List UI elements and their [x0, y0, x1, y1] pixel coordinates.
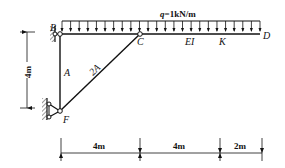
structure-diagram: q=1kN/m B C D F K A 2A EI 4m 4m 4m 2m — [0, 0, 285, 168]
node-label-c: C — [137, 36, 144, 47]
load-label: q=1kN/m — [160, 9, 196, 19]
dimension-label-3: 2m — [234, 141, 247, 151]
node-label-b: B — [50, 22, 56, 33]
node-label-k: K — [218, 36, 227, 47]
wall-support-f — [42, 98, 60, 120]
hinge-f — [58, 109, 63, 114]
vertical-dimension-label: 4m — [23, 66, 33, 79]
dimension-label-1: 4m — [93, 141, 106, 151]
vertical-dimension: 4m — [20, 32, 35, 108]
member-label-a: A — [63, 67, 71, 78]
member-label-ei: EI — [184, 36, 195, 47]
horizontal-dimension: 4m 4m 2m — [61, 138, 262, 161]
node-label-f: F — [62, 114, 70, 125]
member-label-2a: 2A — [87, 61, 103, 77]
hinge-b — [58, 32, 63, 37]
member-strut-2a — [60, 34, 140, 111]
dimension-label-2: 4m — [173, 141, 186, 151]
distributed-load — [61, 21, 262, 32]
node-label-d: D — [262, 30, 271, 41]
